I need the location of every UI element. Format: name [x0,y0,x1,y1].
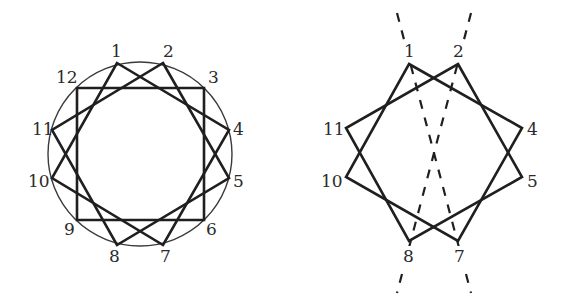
vertex-label: 4 [233,119,244,139]
vertex-label: 1 [404,41,415,61]
vertex-label: 1 [111,41,122,61]
vertex-label: 5 [233,171,244,191]
square-12-3-6-9 [77,88,204,220]
vertex-label: 10 [321,171,343,191]
vertex-label: 11 [323,119,345,139]
vertex-label: 6 [206,219,217,239]
vertex-label: 8 [403,246,414,266]
vertex-label: 10 [28,171,50,191]
vertex-label: 8 [109,246,120,266]
vertex-label: 12 [56,67,78,87]
vertex-label: 5 [527,171,538,191]
vertex-label: 3 [208,67,219,87]
square-1-4-7-10 [52,63,229,245]
vertex-label: 7 [160,246,171,266]
vertex-label: 7 [454,246,465,266]
diagram-canvas: 1 2 3 4 5 6 7 8 9 10 11 12 1 2 4 5 7 8 [0,0,565,307]
square-2-5-8-11 [52,63,229,245]
left-figure: 1 2 3 4 5 6 7 8 9 10 11 12 [28,41,244,266]
right-figure: 1 2 4 5 7 8 11 10 [321,13,538,293]
vertex-label: 9 [64,219,75,239]
vertex-label: 2 [163,41,174,61]
vertex-label: 2 [453,41,464,61]
vertex-label: 4 [527,119,538,139]
vertex-label: 11 [32,119,54,139]
